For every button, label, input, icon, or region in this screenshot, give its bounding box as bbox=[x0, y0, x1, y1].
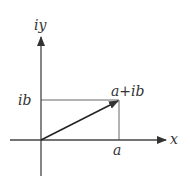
real-tick-label: a bbox=[113, 142, 121, 158]
point-label: a+ib bbox=[111, 83, 145, 99]
imag-tick-label: ib bbox=[18, 92, 31, 108]
y-axis-label: iy bbox=[34, 17, 47, 33]
x-axis-label: x bbox=[170, 131, 178, 147]
complex-vector bbox=[41, 101, 118, 140]
complex-plane-diagram: iy x ib a a+ib bbox=[0, 0, 188, 185]
